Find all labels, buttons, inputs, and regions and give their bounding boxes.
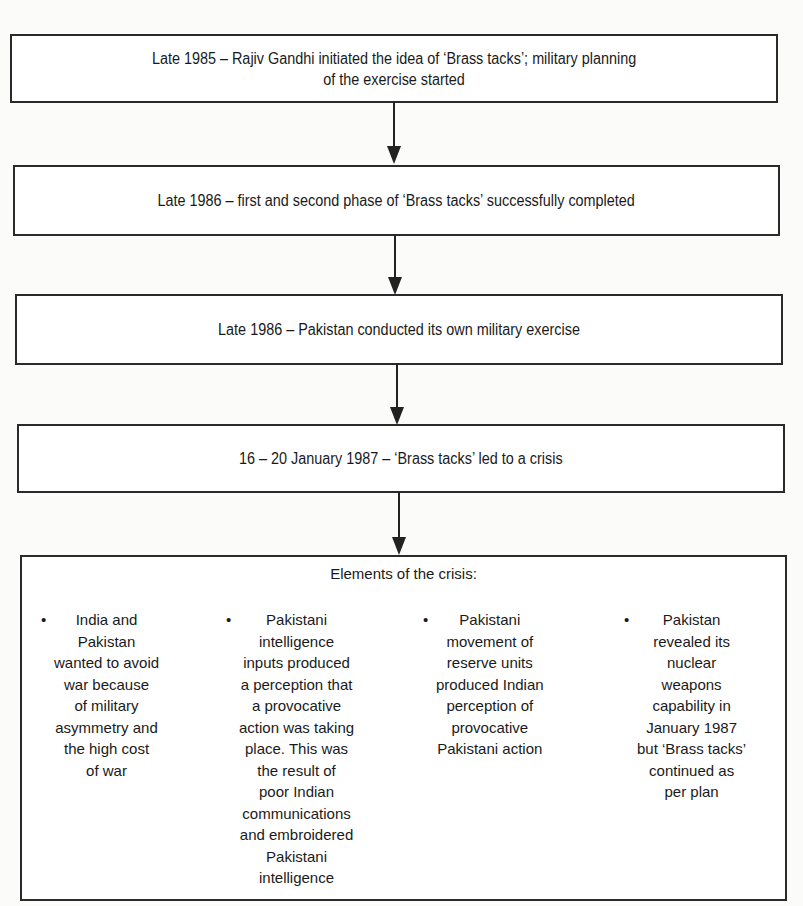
element-3-line: produced Indian [436,674,544,696]
flow-step-4: 16 – 20 January 1987 – ‘Brass tacks’ led… [17,424,785,493]
element-1-line: of military [54,695,159,717]
crisis-element-1: • India and Pakistan wanted to avoid war… [54,609,159,781]
element-2-line: a perception that [239,674,354,696]
bullet-icon: • [41,609,46,631]
element-4-line: but ‘Brass tacks’ [637,738,746,760]
element-2-line: communications [239,803,354,825]
element-3-line: Pakistani [436,609,544,631]
element-2-line: a provocative [239,695,354,717]
element-2-line: and embroidered [239,824,354,846]
element-2-line: Pakistani [239,609,354,631]
crisis-title: Elements of the crisis: [22,565,785,582]
element-3-line: reserve units [436,652,544,674]
element-4-line: Pakistan [637,609,746,631]
element-4-line: weapons [637,674,746,696]
element-4-line: nuclear [637,652,746,674]
arrow-down-icon [390,364,404,425]
crisis-element-4: • Pakistan revealed its nuclear weapons … [637,609,746,803]
flow-step-3: Late 1986 – Pakistan conducted its own m… [15,294,783,365]
crisis-element-2: • Pakistani intelligence inputs produced… [239,609,354,889]
element-3-line: provocative [436,717,544,739]
step-4-text: 16 – 20 January 1987 – ‘Brass tacks’ led… [221,448,581,469]
element-1-line: wanted to avoid [54,652,159,674]
element-1-line: the high cost [54,738,159,760]
element-3-line: movement of [436,631,544,653]
element-3-line: perception of [436,695,544,717]
flow-step-2: Late 1986 – first and second phase of ‘B… [13,165,780,236]
step-1-line-2: of the exercise started [323,71,465,88]
step-3-text: Late 1986 – Pakistan conducted its own m… [200,319,598,340]
element-2-line: poor Indian [239,781,354,803]
element-1-line: asymmetry and [54,717,159,739]
element-4-line: revealed its [637,631,746,653]
element-2-line: intelligence [239,631,354,653]
bullet-icon: • [624,609,629,631]
element-1-line: war because [54,674,159,696]
element-4-line: January 1987 [637,717,746,739]
element-2-line: the result of [239,760,354,782]
element-2-line: intelligence [239,867,354,889]
flow-step-1: Late 1985 – Rajiv Gandhi initiated the i… [10,34,778,103]
element-1-line: India and [54,609,159,631]
element-2-line: Pakistani [239,846,354,868]
element-4-line: capability in [637,695,746,717]
step-1-line-1: Late 1985 – Rajiv Gandhi initiated the i… [152,50,636,67]
crisis-elements-box: Elements of the crisis: • India and Paki… [20,555,787,901]
arrow-down-icon [387,102,401,164]
element-2-line: place. This was [239,738,354,760]
element-1-line: of war [54,760,159,782]
step-1-text: Late 1985 – Rajiv Gandhi initiated the i… [134,48,654,90]
element-4-line: per plan [637,781,746,803]
element-4-line: continued as [637,760,746,782]
element-2-line: action was taking [239,717,354,739]
arrow-down-icon [388,235,402,295]
step-2-text: Late 1986 – first and second phase of ‘B… [140,190,653,211]
element-3-line: Pakistani action [436,738,544,760]
element-1-line: Pakistan [54,631,159,653]
crisis-element-3: • Pakistani movement of reserve units pr… [436,609,544,760]
bullet-icon: • [226,609,231,631]
element-2-line: inputs produced [239,652,354,674]
bullet-icon: • [423,609,428,631]
arrow-down-icon [392,492,406,555]
